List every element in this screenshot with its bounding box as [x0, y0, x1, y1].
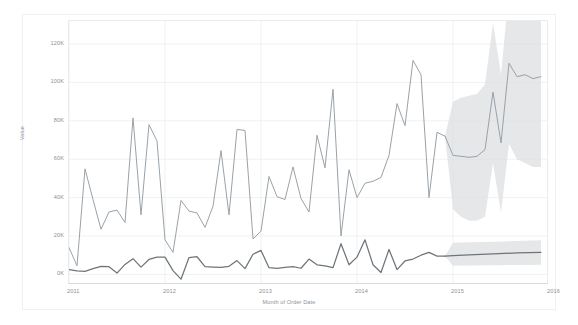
series-line	[69, 60, 445, 265]
plot-svg	[69, 21, 548, 283]
y-axis-ticks: 0K20K40K60K80K100K120K	[26, 20, 64, 283]
y-tick-label: 100K	[28, 78, 64, 85]
y-tick-label: 80K	[28, 116, 64, 123]
x-axis-line	[68, 283, 548, 284]
y-tick-label: 60K	[28, 155, 64, 162]
plot-area	[68, 20, 548, 283]
x-tick-label: 2016	[547, 288, 560, 294]
x-tick-label: 2012	[163, 288, 176, 294]
x-tick-label: 2015	[451, 288, 464, 294]
y-axis-title: Value	[19, 126, 25, 140]
x-axis-ticks: 201120122013201420152016	[68, 288, 548, 298]
x-tick-label: 2014	[355, 288, 368, 294]
chart-root: Value 0K20K40K60K80K100K120K 20112012201…	[0, 0, 578, 325]
series-line	[69, 240, 445, 279]
y-tick-label: 0K	[28, 270, 64, 277]
y-tick-label: 120K	[28, 40, 64, 47]
y-tick-label: 40K	[28, 193, 64, 200]
y-tick-label: 20K	[28, 232, 64, 239]
confidence-band	[445, 21, 541, 221]
x-tick-label: 2011	[67, 288, 79, 294]
x-tick-label: 2013	[259, 288, 272, 294]
x-axis-title: Month of Order Date	[0, 299, 578, 305]
